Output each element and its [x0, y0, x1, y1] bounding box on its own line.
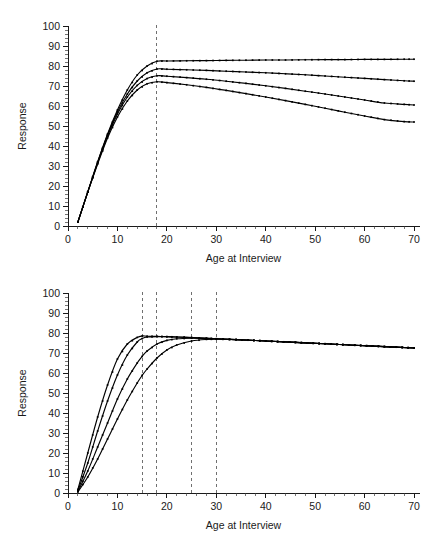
data-point	[173, 69, 175, 71]
data-point	[82, 206, 84, 208]
data-point	[397, 80, 399, 82]
data-point	[318, 75, 320, 77]
data-point	[87, 470, 89, 472]
data-point	[283, 341, 285, 343]
data-point	[87, 191, 89, 193]
data-point	[259, 340, 261, 342]
data-point	[245, 71, 247, 73]
data-point	[141, 81, 143, 83]
data-point	[212, 88, 214, 90]
y-tick-label: 0	[54, 487, 60, 499]
data-point	[278, 99, 280, 101]
data-point	[186, 84, 188, 86]
data-point	[395, 346, 397, 348]
series-curve-15	[77, 335, 415, 490]
data-point	[161, 353, 163, 355]
data-point	[324, 107, 326, 109]
data-point	[156, 68, 158, 70]
data-point	[239, 59, 241, 61]
data-point	[291, 59, 293, 61]
data-point	[151, 363, 153, 365]
data-point	[370, 59, 372, 61]
data-point	[285, 59, 287, 61]
data-point	[117, 374, 119, 376]
data-point	[291, 73, 293, 75]
data-point	[112, 387, 114, 389]
data-point	[171, 336, 173, 338]
data-point	[304, 59, 306, 61]
data-point	[219, 70, 221, 72]
data-point	[192, 85, 194, 87]
data-point	[378, 345, 380, 347]
y-tick-label: 40	[48, 140, 60, 152]
data-point	[176, 338, 178, 340]
data-point	[136, 341, 138, 343]
data-point	[151, 82, 153, 84]
data-point	[225, 70, 227, 72]
data-point	[131, 348, 133, 350]
data-point	[176, 344, 178, 346]
data-point	[107, 384, 109, 386]
data-point	[117, 418, 119, 420]
data-point	[199, 60, 201, 62]
data-point	[298, 102, 300, 104]
data-point	[136, 80, 138, 82]
data-point	[117, 398, 119, 400]
series-curve-25	[77, 337, 415, 492]
x-tick-label: 60	[359, 500, 371, 512]
data-point	[312, 342, 314, 344]
data-point	[97, 416, 99, 418]
x-tick-label: 50	[309, 500, 321, 512]
data-point	[112, 127, 114, 129]
data-point	[229, 339, 231, 341]
data-point	[156, 343, 158, 345]
data-point	[122, 105, 124, 107]
data-point	[324, 93, 326, 95]
y-tick-label: 50	[48, 120, 60, 132]
data-point	[311, 59, 313, 61]
data-point	[219, 60, 221, 62]
data-point	[166, 349, 168, 351]
series-markers	[77, 337, 415, 492]
x-tick-label: 50	[309, 233, 321, 245]
data-point	[278, 87, 280, 89]
data-point	[102, 400, 104, 402]
data-point	[397, 120, 399, 122]
data-point	[239, 71, 241, 73]
x-tick-label: 20	[161, 500, 173, 512]
data-point	[215, 338, 217, 340]
data-point	[206, 87, 208, 89]
data-point	[351, 77, 353, 79]
data-point	[141, 356, 143, 358]
data-point	[191, 340, 193, 342]
data-point	[183, 338, 185, 340]
data-point	[107, 400, 109, 402]
data-point	[271, 340, 273, 342]
data-point	[146, 65, 148, 67]
data-point	[126, 343, 128, 345]
chart-panel-bottom: 0102030405060708090100010203040506070Age…	[0, 267, 437, 533]
series-line	[78, 339, 414, 492]
data-point	[82, 480, 84, 482]
data-point	[166, 340, 168, 342]
data-point	[166, 336, 168, 338]
data-series-group	[77, 58, 415, 223]
data-point	[92, 177, 94, 179]
data-point	[245, 83, 247, 85]
data-point	[131, 95, 133, 97]
data-point	[342, 344, 344, 346]
series-curve-4	[77, 81, 415, 223]
data-point	[390, 58, 392, 60]
data-point	[298, 74, 300, 76]
data-point	[126, 89, 128, 91]
data-point	[92, 446, 94, 448]
series-line	[78, 69, 414, 222]
series-markers	[77, 336, 415, 492]
x-axis-title: Age at Interview	[206, 519, 282, 531]
series-markers	[77, 335, 415, 490]
data-point	[122, 364, 124, 366]
y-tick-label: 20	[48, 180, 60, 192]
data-point	[377, 101, 379, 103]
data-point	[166, 68, 168, 70]
data-point	[173, 76, 175, 78]
